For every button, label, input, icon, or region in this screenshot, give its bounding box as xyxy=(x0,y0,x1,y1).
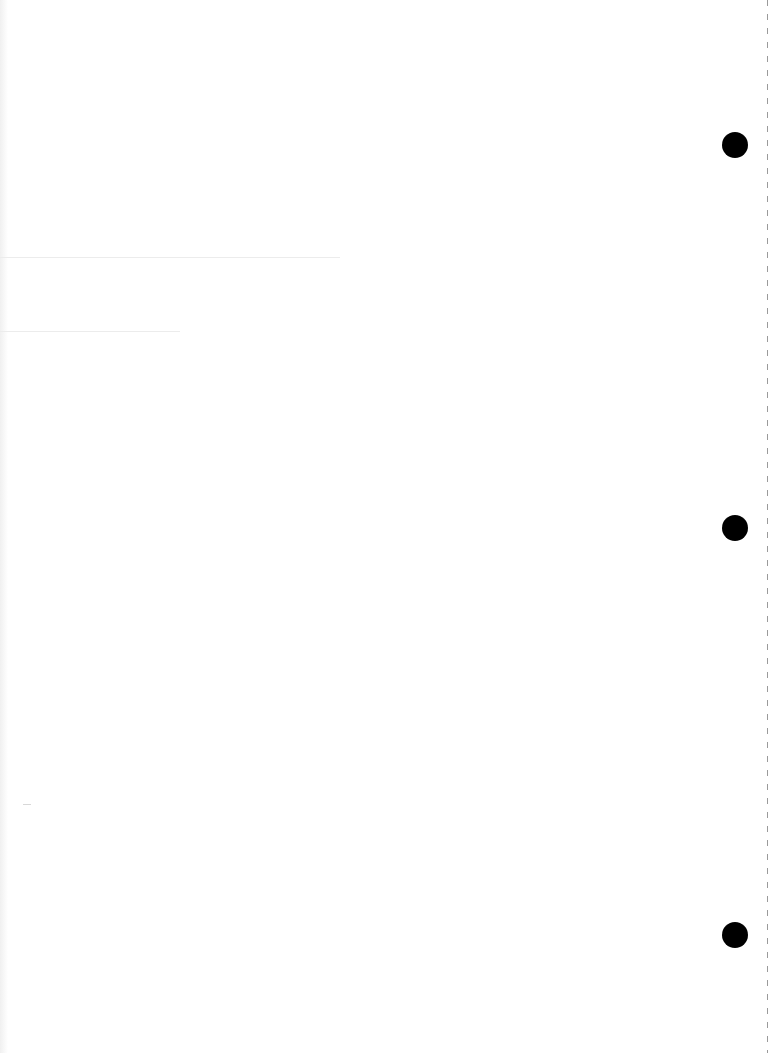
scan-speck xyxy=(23,804,31,805)
scan-edge-shadow xyxy=(0,0,8,1053)
scan-artifact-line xyxy=(0,257,340,258)
punch-hole-top-icon xyxy=(722,132,748,158)
punch-hole-bottom-icon xyxy=(722,922,748,948)
scan-artifact-line xyxy=(0,331,180,332)
punch-hole-middle-icon xyxy=(722,515,748,541)
perforated-edge xyxy=(767,0,768,1053)
